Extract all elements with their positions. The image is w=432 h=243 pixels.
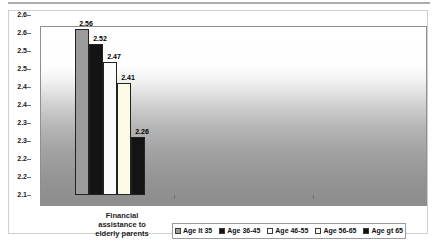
legend-item-age-lt-35: Age lt 35: [175, 227, 212, 235]
chart-canvas: Financialassistance toelderly parents Ag…: [0, 0, 432, 243]
y-axis-tick-label: 2.1: [7, 191, 27, 199]
bar-age-56-65: [117, 83, 131, 195]
y-axis-tick-label: 2.4: [7, 83, 27, 91]
y-axis-tick-mark: [27, 141, 31, 142]
y-axis-tick-label: 2.4: [7, 101, 27, 109]
legend-item-age-gt-65: Age gt 65: [363, 227, 403, 235]
y-axis-tick-mark: [27, 159, 31, 160]
y-axis-tick-label: 2.5: [7, 47, 27, 55]
y-axis-tick-label: 2.2: [7, 173, 27, 181]
category-label-line: assistance to: [62, 220, 182, 229]
y-axis-tick-label: 2.6: [7, 11, 27, 19]
legend-label: Age lt 35: [183, 227, 212, 235]
legend-marker-icon: [363, 228, 369, 234]
legend-label: Age 46-55: [275, 227, 308, 235]
bar-data-label: 2.41: [117, 73, 139, 82]
y-axis-tick-mark: [27, 195, 31, 196]
y-axis-tick-mark: [27, 87, 31, 88]
category-label-line: elderly parents: [62, 229, 182, 238]
bar-data-label: 2.52: [89, 34, 111, 43]
bar-age-46-55: [103, 62, 117, 195]
legend-marker-icon: [267, 228, 273, 234]
y-axis-tick-mark: [27, 51, 31, 52]
legend-item-age-56-65: Age 56-65: [315, 227, 356, 235]
y-axis-tick-label: 2.2: [7, 155, 27, 163]
bar-data-label: 2.56: [75, 19, 97, 28]
legend-item-age-36-45: Age 36-45: [219, 227, 260, 235]
y-axis-tick-mark: [27, 123, 31, 124]
y-axis-tick-label: 2.3: [7, 137, 27, 145]
x-axis-category-label: Financialassistance toelderly parents: [62, 211, 182, 238]
bar-age-lt-35: [75, 29, 89, 195]
legend: Age lt 35Age 36-45Age 46-55Age 56-65Age …: [172, 223, 406, 239]
y-axis-tick-mark: [27, 33, 31, 34]
bar-age-36-45: [89, 44, 103, 195]
y-axis-tick-label: 2.5: [7, 65, 27, 73]
y-axis-tick-mark: [27, 177, 31, 178]
legend-marker-icon: [315, 228, 321, 234]
x-axis-tick-mark: [174, 195, 175, 199]
legend-label: Age gt 65: [371, 227, 403, 235]
y-axis-tick-mark: [27, 69, 31, 70]
x-axis-tick-mark: [313, 195, 314, 199]
chart-frame: Financialassistance toelderly parents Ag…: [8, 10, 428, 234]
y-axis-tick-label: 2.6: [7, 29, 27, 37]
y-axis-tick-mark: [27, 105, 31, 106]
category-label-line: Financial: [62, 211, 182, 220]
y-axis-tick-mark: [27, 15, 31, 16]
bar-data-label: 2.47: [103, 52, 125, 61]
legend-label: Age 56-65: [323, 227, 356, 235]
legend-marker-icon: [219, 228, 225, 234]
bar-data-label: 2.26: [131, 127, 153, 136]
legend-item-age-46-55: Age 46-55: [267, 227, 308, 235]
y-axis-tick-label: 2.3: [7, 119, 27, 127]
legend-label: Age 36-45: [227, 227, 260, 235]
top-crop-rule: [8, 2, 430, 4]
bar-age-gt-65: [131, 137, 145, 195]
legend-marker-icon: [175, 228, 181, 234]
